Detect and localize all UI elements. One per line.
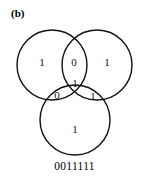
region-bottom-only: 1 bbox=[72, 123, 78, 135]
region-left-bottom-overlap: 0 bbox=[54, 89, 60, 101]
region-center-all-three: 1 bbox=[72, 77, 78, 89]
venn-circles-group bbox=[17, 30, 132, 155]
region-left-right-overlap: 0 bbox=[71, 56, 77, 68]
region-right-bottom-overlap: 1 bbox=[90, 90, 96, 102]
venn-diagram-figure: (b) 1 0 1 1 0 1 1 0011111 bbox=[0, 0, 149, 177]
venn-svg: 1 0 1 1 0 1 1 bbox=[0, 0, 149, 177]
region-right-only: 1 bbox=[104, 56, 110, 68]
region-left-only: 1 bbox=[39, 56, 45, 68]
bottom-circle bbox=[40, 85, 110, 155]
bitstring-caption: 0011111 bbox=[0, 160, 149, 172]
